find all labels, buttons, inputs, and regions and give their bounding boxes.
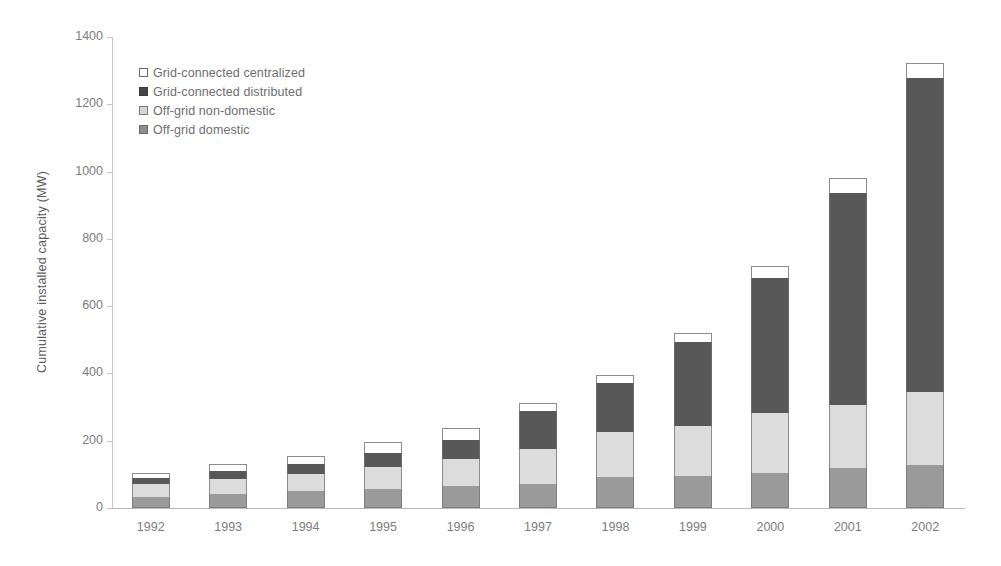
legend-label: Off-grid domestic [153, 123, 250, 137]
bar-segment-distributed[interactable] [364, 453, 402, 467]
bar-stack[interactable] [132, 473, 170, 508]
legend-swatch-centralized [139, 68, 148, 77]
y-axis-tick-label: 800 [55, 231, 103, 245]
y-axis-tick-label: 1400 [55, 29, 103, 43]
bar-group[interactable] [829, 37, 867, 508]
bar-segment-distributed[interactable] [829, 193, 867, 405]
bar-group[interactable] [906, 37, 944, 508]
x-axis-tick-label: 2000 [730, 520, 810, 534]
y-axis-tick-label: 1000 [55, 164, 103, 178]
y-axis-tick-label: 1200 [55, 96, 103, 110]
bar-stack[interactable] [209, 464, 247, 508]
bar-stack[interactable] [519, 403, 557, 508]
bar-segment-nondomestic[interactable] [132, 484, 170, 497]
chart-legend: Grid-connected centralizedGrid-connected… [139, 63, 389, 139]
bar-segment-nondomestic[interactable] [674, 426, 712, 476]
y-axis-tick-label: 400 [55, 365, 103, 379]
bar-segment-centralized[interactable] [829, 178, 867, 193]
bar-group[interactable] [674, 37, 712, 508]
x-axis-tick-label: 1994 [266, 520, 346, 534]
y-axis-title: Cumulative installed capacity (MW) [35, 62, 49, 482]
legend-item[interactable]: Grid-connected centralized [139, 63, 389, 82]
legend-swatch-nondomestic [139, 106, 148, 115]
bar-segment-nondomestic[interactable] [442, 459, 480, 486]
bar-segment-nondomestic[interactable] [829, 405, 867, 468]
bar-segment-distributed[interactable] [674, 342, 712, 426]
bar-segment-nondomestic[interactable] [519, 449, 557, 484]
bar-stack[interactable] [596, 375, 634, 508]
legend-item[interactable]: Off-grid non-domestic [139, 101, 389, 120]
legend-label: Off-grid non-domestic [153, 104, 275, 118]
y-axis-tick-mark [107, 508, 112, 509]
bar-segment-domestic[interactable] [287, 491, 325, 508]
bar-segment-distributed[interactable] [906, 78, 944, 392]
bar-segment-centralized[interactable] [596, 375, 634, 383]
bar-segment-domestic[interactable] [906, 465, 944, 508]
bar-segment-domestic[interactable] [132, 497, 170, 508]
legend-label: Grid-connected centralized [153, 66, 305, 80]
bar-segment-centralized[interactable] [906, 63, 944, 78]
bar-stack[interactable] [751, 266, 789, 508]
bar-segment-domestic[interactable] [751, 473, 789, 508]
x-axis-tick-label: 1997 [498, 520, 578, 534]
bar-segment-distributed[interactable] [287, 464, 325, 474]
x-axis-tick-label: 2001 [808, 520, 888, 534]
bar-segment-domestic[interactable] [209, 494, 247, 508]
bar-segment-domestic[interactable] [596, 477, 634, 508]
bar-segment-centralized[interactable] [751, 266, 789, 278]
x-axis-tick-label: 2002 [885, 520, 965, 534]
x-axis-tick-label: 1998 [575, 520, 655, 534]
x-axis-line [112, 508, 965, 509]
bar-stack[interactable] [364, 442, 402, 508]
x-axis-tick-label: 1999 [653, 520, 733, 534]
legend-item[interactable]: Grid-connected distributed [139, 82, 389, 101]
y-axis-tick-label: 600 [55, 298, 103, 312]
bar-stack[interactable] [442, 428, 480, 508]
legend-swatch-distributed [139, 87, 148, 96]
bar-segment-nondomestic[interactable] [364, 467, 402, 488]
bar-stack[interactable] [287, 456, 325, 508]
legend-label: Grid-connected distributed [153, 85, 302, 99]
bar-segment-distributed[interactable] [442, 440, 480, 459]
bar-segment-distributed[interactable] [596, 383, 634, 432]
bar-segment-nondomestic[interactable] [287, 474, 325, 490]
x-axis-tick-label: 1992 [111, 520, 191, 534]
legend-swatch-domestic [139, 125, 148, 134]
bar-segment-domestic[interactable] [829, 468, 867, 508]
bar-segment-distributed[interactable] [209, 471, 247, 479]
bar-segment-distributed[interactable] [751, 278, 789, 413]
bar-segment-nondomestic[interactable] [596, 432, 634, 477]
bar-stack[interactable] [674, 333, 712, 508]
x-axis-tick-label: 1996 [421, 520, 501, 534]
stacked-bar-chart: Cumulative installed capacity (MW) 14001… [0, 0, 1001, 566]
bar-segment-centralized[interactable] [519, 403, 557, 411]
bar-segment-centralized[interactable] [442, 428, 480, 440]
x-axis-tick-label: 1995 [343, 520, 423, 534]
bar-group[interactable] [519, 37, 557, 508]
bar-segment-centralized[interactable] [364, 442, 402, 453]
bar-segment-centralized[interactable] [674, 333, 712, 342]
bar-segment-nondomestic[interactable] [209, 479, 247, 493]
bar-segment-domestic[interactable] [364, 489, 402, 509]
bar-segment-domestic[interactable] [674, 476, 712, 508]
x-axis-tick-label: 1993 [188, 520, 268, 534]
bar-group[interactable] [751, 37, 789, 508]
bar-segment-centralized[interactable] [287, 456, 325, 464]
y-axis-tick-label: 0 [55, 500, 103, 514]
bar-segment-centralized[interactable] [209, 464, 247, 471]
bar-stack[interactable] [906, 63, 944, 508]
bar-segment-nondomestic[interactable] [906, 392, 944, 465]
bar-segment-domestic[interactable] [519, 484, 557, 508]
legend-item[interactable]: Off-grid domestic [139, 120, 389, 139]
bar-segment-domestic[interactable] [442, 486, 480, 508]
bar-group[interactable] [442, 37, 480, 508]
bar-segment-nondomestic[interactable] [751, 413, 789, 473]
bar-stack[interactable] [829, 178, 867, 508]
bar-segment-distributed[interactable] [519, 411, 557, 449]
bar-group[interactable] [596, 37, 634, 508]
y-axis-tick-label: 200 [55, 433, 103, 447]
